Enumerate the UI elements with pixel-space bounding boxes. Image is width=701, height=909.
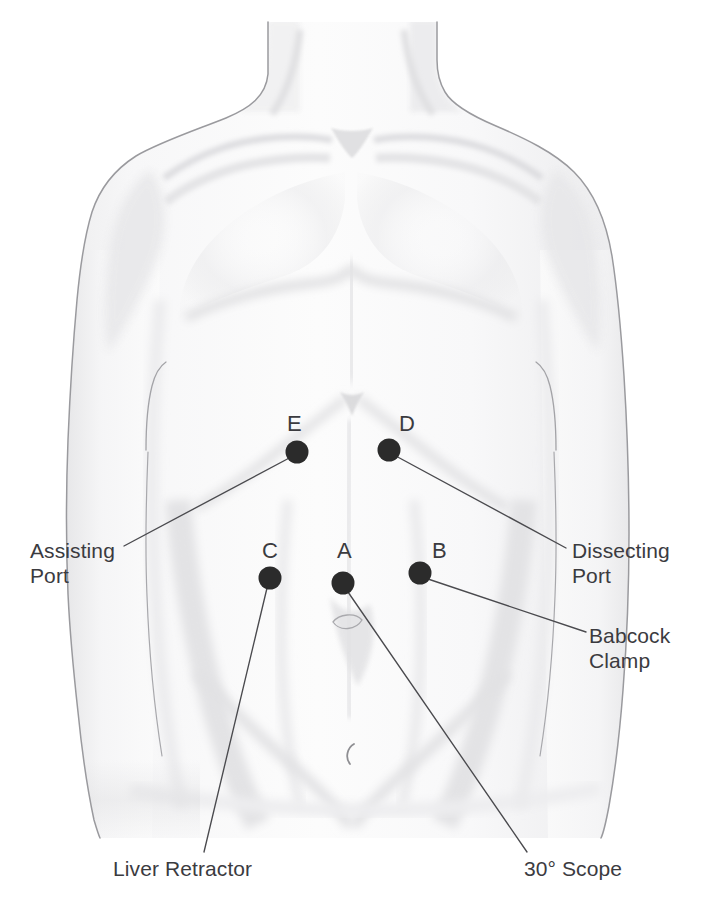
port-placement-figure: E D C A B Assisting Port Dissecting Port… — [0, 0, 701, 909]
port-dot-a[interactable] — [332, 572, 355, 595]
port-dot-d[interactable] — [378, 439, 401, 462]
port-dot-c[interactable] — [259, 567, 282, 590]
neck-shade-right — [410, 20, 462, 112]
annotation-dissecting-port: Dissecting Port — [572, 538, 670, 588]
port-letter-d: D — [399, 413, 415, 435]
annotation-assisting-port: Assisting Port — [30, 538, 115, 588]
torso-body-group — [62, 20, 638, 852]
torso-illustration — [0, 0, 701, 909]
annotation-babcock-clamp: Babcock Clamp — [589, 623, 670, 673]
port-letter-e: E — [287, 413, 302, 435]
port-dot-b[interactable] — [409, 562, 432, 585]
port-letter-b: B — [432, 540, 447, 562]
annotation-30-scope: 30° Scope — [524, 856, 622, 881]
port-dot-e[interactable] — [286, 441, 309, 464]
port-letter-a: A — [337, 540, 352, 562]
port-letter-c: C — [262, 540, 278, 562]
annotation-liver-retractor: Liver Retractor — [113, 856, 252, 881]
linea-alba — [348, 420, 350, 718]
sternum-shadow — [351, 260, 352, 382]
